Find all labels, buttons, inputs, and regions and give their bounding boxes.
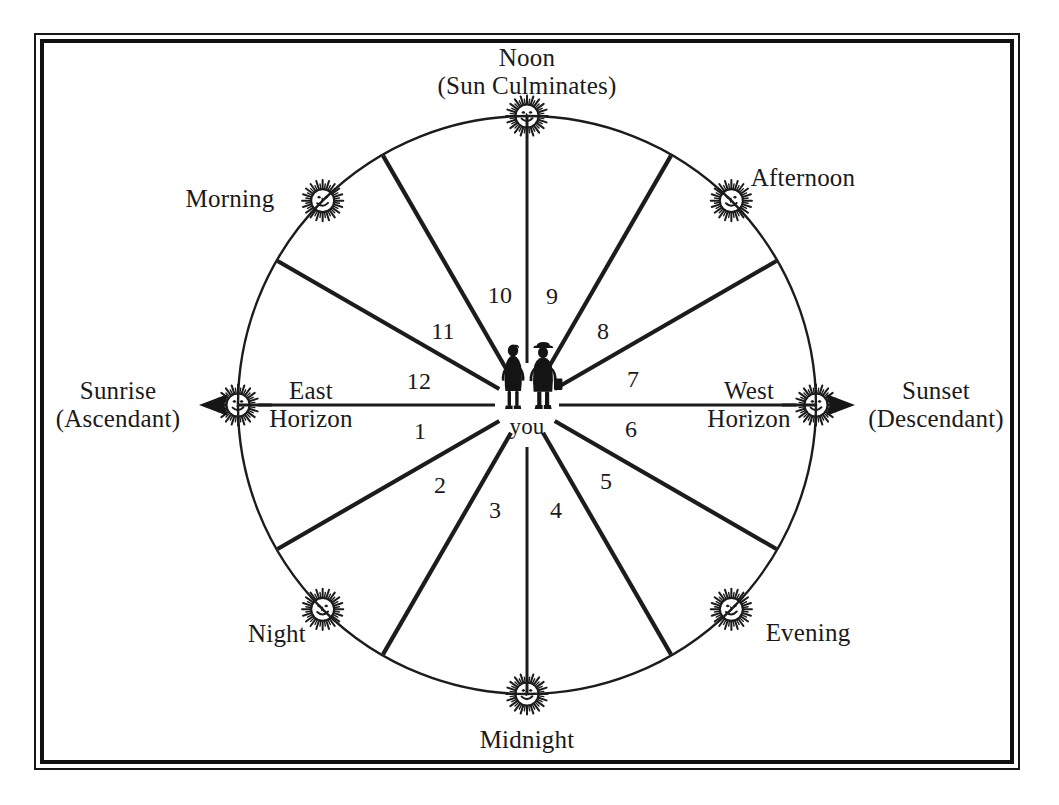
house-number-5: 5 bbox=[600, 468, 612, 495]
house-number-6: 6 bbox=[625, 416, 637, 443]
house-number-3: 3 bbox=[489, 497, 501, 524]
house-cusp-line bbox=[555, 421, 777, 549]
house-cusp-line bbox=[278, 421, 500, 549]
label-noon: Noon (Sun Culminates) bbox=[438, 44, 617, 100]
house-number-2: 2 bbox=[434, 472, 446, 499]
house-number-12: 12 bbox=[407, 368, 431, 395]
label-morning: Morning bbox=[186, 185, 275, 213]
house-number-11: 11 bbox=[431, 318, 455, 345]
house-cusp-line bbox=[543, 433, 671, 655]
house-cusp-line bbox=[555, 261, 777, 389]
house-cusp-line bbox=[383, 433, 511, 655]
sun-midnight-icon bbox=[506, 673, 547, 714]
house-number-7: 7 bbox=[627, 366, 639, 393]
observer-figures bbox=[488, 342, 566, 414]
label-afternoon: Afternoon bbox=[751, 164, 856, 192]
label-west-horizon: West Horizon bbox=[707, 377, 790, 433]
label-sunset: Sunset (Descendant) bbox=[868, 377, 1004, 433]
house-number-10: 10 bbox=[488, 282, 512, 309]
sun-noon-icon bbox=[506, 95, 547, 136]
house-number-1: 1 bbox=[414, 418, 426, 445]
label-east-horizon: East Horizon bbox=[269, 377, 352, 433]
center-label-you: you bbox=[509, 414, 544, 440]
label-midnight: Midnight bbox=[480, 726, 575, 754]
label-sunrise: Sunrise (Ascendant) bbox=[56, 377, 180, 433]
house-number-9: 9 bbox=[546, 283, 558, 310]
label-night: Night bbox=[248, 620, 306, 648]
figure-man bbox=[530, 342, 563, 409]
sunrise-arrow-icon bbox=[199, 394, 228, 416]
diagram-canvas: you Noon (Sun Culminates)MidnightSunrise… bbox=[0, 0, 1059, 805]
house-number-4: 4 bbox=[550, 497, 562, 524]
house-cusp-line bbox=[278, 261, 500, 389]
label-evening: Evening bbox=[766, 619, 851, 647]
house-number-8: 8 bbox=[597, 318, 609, 345]
sunset-arrow-icon bbox=[826, 394, 855, 416]
figure-woman bbox=[502, 345, 525, 410]
